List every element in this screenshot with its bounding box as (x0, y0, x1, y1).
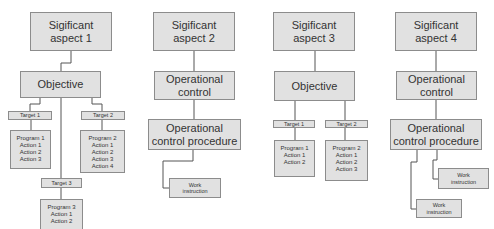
col4-work-instruction-1-line2: instruction (451, 179, 476, 185)
col3-target-1-box: Target 1 (273, 120, 315, 128)
aspect-4-box: Sigificant aspect 4 (395, 12, 477, 51)
col4-work-instruction-1-box: Work instruction (438, 168, 489, 189)
op-control-procedure-4-box: Operational control procedure (390, 119, 482, 150)
col4-work-instruction-2-line2: instruction (426, 209, 451, 215)
col1-program-1-action-1: Action 1 (20, 142, 42, 149)
aspect-1-line1: Sigificant (49, 19, 94, 31)
col1-program-3-box: Program 3 Action 1 Action 2 (40, 199, 83, 229)
col1-program-1-action-2: Action 2 (20, 149, 42, 156)
col2-work-instruction-box: Work instruction (169, 178, 221, 198)
col1-program-1-action-3: Action 3 (20, 156, 42, 163)
operational-control-2-line2: control (178, 86, 211, 98)
col1-target-2-box: Target 2 (81, 111, 125, 120)
col3-program-2-action-2: Action 2 (336, 159, 358, 166)
op-control-procedure-4-line2: control procedure (393, 135, 479, 147)
op-control-procedure-4-line1: Operational (408, 122, 465, 134)
col3-program-2-action-3: Action 3 (336, 166, 358, 173)
objective-3-box: Objective (274, 71, 355, 101)
operational-control-2-line1: Operational (166, 73, 223, 85)
aspect-3-line2: aspect 3 (293, 32, 335, 44)
aspect-2-box: Sigificant aspect 2 (153, 12, 235, 51)
col3-target-2-label: Target 2 (337, 121, 357, 127)
objective-3-label: Objective (292, 80, 338, 92)
col2-work-instruction-line2: instruction (182, 188, 207, 194)
col3-program-1-action-2: Action 2 (284, 159, 306, 166)
op-control-procedure-2-line1: Operational (166, 122, 223, 134)
aspect-3-box: Sigificant aspect 3 (273, 12, 355, 51)
col3-program-2-box: Program 2 Action 1 Action 2 Action 3 (325, 140, 368, 181)
operational-control-2-box: Operational control (154, 71, 235, 100)
col1-target-1-box: Target 1 (8, 111, 52, 120)
op-control-procedure-2-box: Operational control procedure (148, 119, 241, 150)
operational-control-4-box: Operational control (396, 71, 477, 100)
col3-target-1-label: Target 1 (284, 121, 304, 127)
op-control-procedure-2-line2: control procedure (152, 135, 238, 147)
aspect-4-line1: Sigificant (414, 19, 459, 31)
col3-program-2-title: Program 2 (332, 145, 360, 152)
col1-program-3-action-1: Action 1 (51, 211, 73, 218)
col1-target-1-label: Target 1 (20, 112, 40, 118)
col4-work-instruction-2-box: Work instruction (416, 199, 462, 218)
objective-1-label: Objective (38, 78, 84, 90)
col1-program-2-action-3: Action 3 (92, 156, 114, 163)
col3-program-2-action-1: Action 1 (336, 152, 358, 159)
aspect-3-line1: Sigificant (292, 19, 337, 31)
aspect-2-line1: Sigificant (172, 19, 217, 31)
col1-program-3-action-2: Action 2 (51, 218, 73, 225)
operational-control-4-line1: Operational (408, 73, 465, 85)
aspect-1-line2: aspect 1 (50, 32, 92, 44)
col3-program-1-action-1: Action 1 (284, 152, 306, 159)
col1-target-2-label: Target 2 (93, 112, 113, 118)
col1-target-3-label: Target 3 (52, 180, 72, 186)
col3-program-1-title: Program 1 (280, 145, 308, 152)
objective-1-box: Objective (20, 71, 101, 98)
operational-control-4-line2: control (420, 86, 453, 98)
col3-program-1-box: Program 1 Action 1 Action 2 (274, 140, 315, 177)
col1-program-2-title: Program 2 (88, 135, 116, 142)
col1-program-2-box: Program 2 Action 1 Action 2 Action 3 Act… (80, 130, 125, 173)
col1-program-1-title: Program 1 (16, 135, 44, 142)
col1-program-3-title: Program 3 (47, 204, 75, 211)
col1-program-2-action-4: Action 4 (92, 163, 114, 170)
col1-target-3-box: Target 3 (41, 178, 82, 188)
col1-program-2-action-1: Action 1 (92, 142, 114, 149)
col3-target-2-box: Target 2 (325, 120, 368, 128)
col1-program-1-box: Program 1 Action 1 Action 2 Action 3 (10, 130, 51, 169)
aspect-1-box: Sigificant aspect 1 (30, 12, 112, 51)
aspect-2-line2: aspect 2 (173, 32, 215, 44)
aspect-4-line2: aspect 4 (415, 32, 457, 44)
col1-program-2-action-2: Action 2 (92, 149, 114, 156)
